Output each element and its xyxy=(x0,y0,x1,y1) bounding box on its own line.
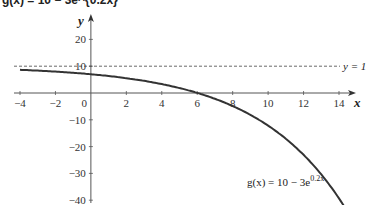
x-axis-label: x xyxy=(353,95,361,110)
function-annotation: g(x) = 10 − 3e0.2x xyxy=(247,174,324,189)
x-tick-label: 12 xyxy=(298,97,309,109)
y-tick-label: −30 xyxy=(69,167,87,179)
formula-main: g(x) = 10 − 3e xyxy=(247,176,310,189)
y-tick-label: −10 xyxy=(69,114,87,126)
y-axis-label: y xyxy=(76,13,84,28)
y-tick-label: −40 xyxy=(69,194,87,205)
x-tick-label: 0 xyxy=(81,97,87,109)
x-tick-label: 14 xyxy=(334,97,346,109)
x-tick-label: −4 xyxy=(14,97,26,109)
formula-superscript: 0.2x xyxy=(310,174,324,183)
y-tick-label: 20 xyxy=(75,33,87,45)
x-tick-label: 2 xyxy=(124,97,130,109)
x-tick-label: 6 xyxy=(194,97,200,109)
chart-canvas: −4−2024681012142010−10−20−30−40 x y y = … xyxy=(0,0,367,205)
x-tick-label: 4 xyxy=(159,97,165,109)
x-tick-label: −2 xyxy=(50,97,62,109)
x-tick-label: 10 xyxy=(263,97,275,109)
asymptote-label: y = 1 xyxy=(342,60,366,72)
y-tick-label: −20 xyxy=(69,141,87,153)
